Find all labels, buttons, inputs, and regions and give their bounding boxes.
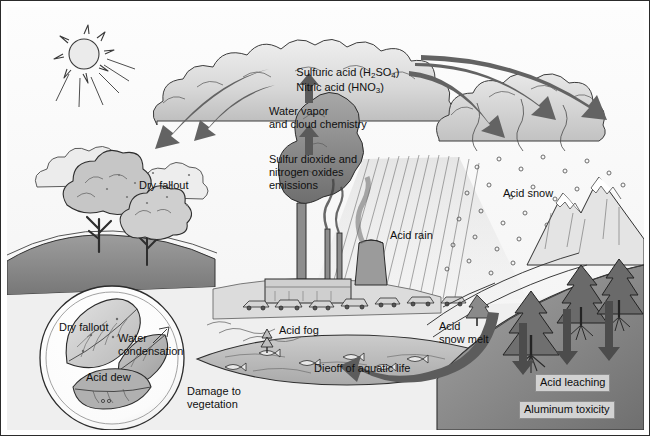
label-water-vapor: Water vapor and cloud chemistry (269, 105, 367, 131)
label-aluminum-toxicity: Aluminum toxicity (519, 401, 615, 419)
label-emissions: Sulfur dioxide and nitrogen oxides emiss… (269, 153, 357, 192)
label-damage-to-vegetation: Damage to vegetation (187, 385, 241, 411)
label-inset-dry-fallout: Dry fallout (59, 321, 109, 334)
label-acid-snow-melt: Acid snow melt (439, 320, 489, 346)
label-nitric-acid: Nitric acid (HNO3) (278, 68, 384, 110)
diagram-canvas: Sulfuric acid (H2SO4) Nitric acid (HNO3)… (7, 7, 644, 430)
label-dry-fallout-sky: Dry fallout (139, 179, 189, 192)
label-inset-water-condensation: Water condensation (118, 332, 183, 358)
label-acid-leaching: Acid leaching (535, 374, 610, 392)
factory-building (265, 279, 351, 303)
diagram-frame: Sulfuric acid (H2SO4) Nitric acid (HNO3)… (0, 0, 650, 436)
label-acid-snow: Acid snow (503, 187, 553, 200)
label-inset-acid-dew: Acid dew (86, 371, 131, 384)
leaf-inset (40, 286, 184, 430)
label-acid-fog: Acid fog (279, 324, 319, 337)
label-acid-rain: Acid rain (390, 229, 433, 242)
label-dieoff-aquatic-life: Dieoff of aquatic life (314, 362, 410, 375)
